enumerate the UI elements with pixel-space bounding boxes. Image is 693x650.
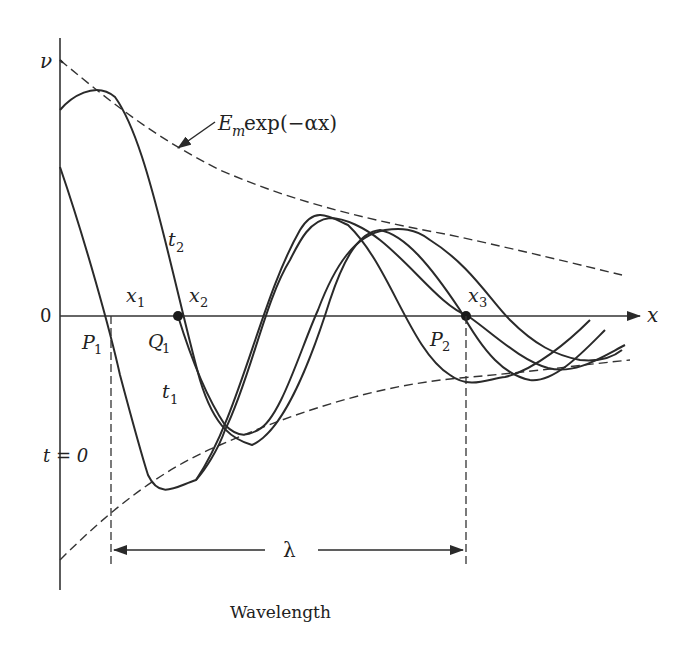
svg-text:1: 1: [162, 341, 170, 356]
label-t1: t 1: [162, 380, 178, 407]
wavelength-symbol: λ: [283, 538, 296, 562]
svg-text:1: 1: [94, 342, 102, 357]
svg-text:t: t: [162, 380, 170, 402]
y-axis-label: ν: [40, 49, 52, 73]
svg-text:x: x: [468, 284, 479, 306]
svg-text:1: 1: [137, 295, 145, 310]
label-x3: x 3: [468, 284, 487, 310]
point-x2-dot: [173, 311, 183, 321]
svg-text:1: 1: [170, 392, 178, 407]
origin-label: 0: [40, 305, 51, 326]
svg-text:3: 3: [479, 295, 487, 310]
svg-text:x: x: [126, 284, 137, 306]
envelope-pointer-arrow: [178, 122, 215, 148]
label-t2: t 2: [168, 228, 184, 255]
svg-text:2: 2: [442, 339, 450, 354]
label-p2: P 2: [429, 328, 450, 354]
upper-envelope: [60, 60, 622, 275]
svg-text:t: t: [168, 228, 176, 250]
wave-t2-main: [178, 229, 622, 435]
wavelength-caption: Wavelength: [230, 602, 331, 622]
label-q1: Q 1: [148, 330, 170, 356]
lower-envelope: [60, 360, 630, 560]
label-x1: x 1: [126, 284, 145, 310]
svg-text:x: x: [189, 284, 200, 306]
axes: [60, 38, 640, 590]
envelope-label-main: E: [217, 111, 233, 135]
envelope-label-rest: exp(−αx): [244, 111, 337, 135]
wave-t1: [60, 90, 605, 445]
label-t0: t = 0: [43, 445, 88, 466]
wave-diagram: ν x 0 E m exp(−αx) t 2 t 1 t = 0 x 1 x 2…: [0, 0, 693, 650]
svg-text:2: 2: [200, 295, 208, 310]
x-axis-label: x: [647, 303, 658, 327]
label-x2: x 2: [189, 284, 208, 310]
wave-curves: [60, 60, 625, 490]
envelope-label: E m exp(−αx): [217, 111, 337, 139]
wave-t0: [60, 167, 590, 490]
svg-text:2: 2: [176, 240, 184, 255]
label-p1: P 1: [81, 331, 102, 357]
